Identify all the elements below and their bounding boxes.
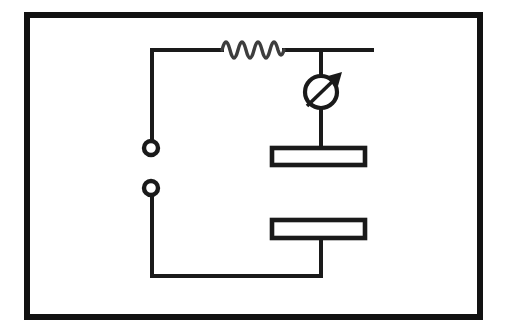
lower-plate — [272, 220, 365, 238]
upper-terminal-icon — [144, 141, 158, 155]
lower-terminal-icon — [144, 181, 158, 195]
circuit-diagram-figure — [0, 0, 505, 335]
diagram-border — [27, 15, 480, 317]
resistor-symbol — [222, 42, 284, 58]
upper-plate — [272, 148, 365, 165]
circuit-diagram-canvas — [0, 0, 505, 335]
